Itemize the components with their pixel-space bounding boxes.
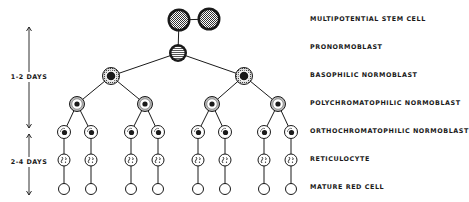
pronormoblast-icon xyxy=(169,44,187,62)
lineage-nodes xyxy=(58,8,298,195)
reticulocyte-icon xyxy=(285,154,297,166)
orthochromatophilic-normoblast-icon xyxy=(58,126,71,139)
mature-red-cell-icon xyxy=(220,184,231,195)
stage-label-pronormoblast: PRONORMOBLAST xyxy=(310,43,383,51)
stem-cell-icon xyxy=(168,9,191,32)
polychromatophilic-normoblast-icon xyxy=(205,97,220,112)
mature-red-cell-icon xyxy=(59,184,70,195)
stage-label-reticulocyte: RETICULOCYTE xyxy=(310,155,370,163)
reticulocyte-icon xyxy=(192,154,204,166)
polychromatophilic-normoblast-icon xyxy=(138,97,153,112)
stem-cell-icon xyxy=(198,8,221,31)
polychromatophilic-normoblast-icon xyxy=(271,97,286,112)
orthochromatophilic-normoblast-icon xyxy=(258,126,271,139)
reticulocyte-icon xyxy=(58,154,70,166)
lineage-edge xyxy=(111,53,178,76)
reticulocyte-icon xyxy=(152,154,164,166)
orthochromatophilic-normoblast-icon xyxy=(219,126,232,139)
stage-label-stem: MULTIPOTENTIAL STEM CELL xyxy=(310,15,426,23)
orthochromatophilic-normoblast-icon xyxy=(285,126,298,139)
mature-red-cell-icon xyxy=(153,184,164,195)
mature-red-cell-icon xyxy=(193,184,204,195)
duration-label-1-2-days: 1-2 DAYS xyxy=(11,72,48,82)
stage-label-orthochromatophilic: ORTHOCHROMATOPHILIC NORMOBLAST xyxy=(310,127,469,135)
reticulocyte-icon xyxy=(258,154,270,166)
mature-red-cell-icon xyxy=(259,184,270,195)
stage-label-basophilic: BASOPHILIC NORMOBLAST xyxy=(310,71,418,79)
duration-label-2-4-days: 2-4 DAYS xyxy=(11,157,48,167)
orthochromatophilic-normoblast-icon xyxy=(125,126,138,139)
mature-red-cell-icon xyxy=(86,184,97,195)
mature-red-cell-icon xyxy=(126,184,137,195)
lineage-edge xyxy=(178,53,244,76)
orthochromatophilic-normoblast-icon xyxy=(85,126,98,139)
orthochromatophilic-normoblast-icon xyxy=(192,126,205,139)
orthochromatophilic-normoblast-icon xyxy=(152,126,165,139)
basophilic-normoblast-icon xyxy=(103,68,120,85)
stage-label-polychromatophilic: POLYCHROMATOPHILIC NORMOBLAST xyxy=(310,99,461,107)
polychromatophilic-normoblast-icon xyxy=(70,97,85,112)
stage-label-mature-red-cell: MATURE RED CELL xyxy=(310,183,384,191)
reticulocyte-icon xyxy=(125,154,137,166)
reticulocyte-icon xyxy=(219,154,231,166)
reticulocyte-icon xyxy=(85,154,97,166)
duration-arrows xyxy=(27,27,32,195)
basophilic-normoblast-icon xyxy=(236,68,253,85)
mature-red-cell-icon xyxy=(286,184,297,195)
